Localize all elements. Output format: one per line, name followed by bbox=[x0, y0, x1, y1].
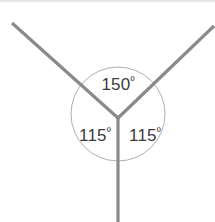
angle-diagram-svg bbox=[0, 0, 215, 222]
angle-label-top: 150º bbox=[101, 75, 134, 94]
degree-symbol-icon: º bbox=[157, 125, 161, 137]
angle-label-top-value: 150 bbox=[101, 75, 130, 94]
ray-upper-right-line bbox=[118, 26, 214, 118]
degree-symbol-icon: º bbox=[107, 125, 111, 137]
angle-label-lower-right: 115º bbox=[129, 126, 161, 145]
angle-label-lower-left: 115º bbox=[79, 126, 111, 145]
angle-label-lower-left-value: 115 bbox=[79, 126, 107, 145]
angle-diagram-canvas: 150º 115º 115º bbox=[0, 0, 215, 222]
angle-label-lower-right-value: 115 bbox=[129, 126, 157, 145]
degree-symbol-icon: º bbox=[130, 74, 134, 86]
ray-upper-left-line bbox=[12, 23, 118, 118]
